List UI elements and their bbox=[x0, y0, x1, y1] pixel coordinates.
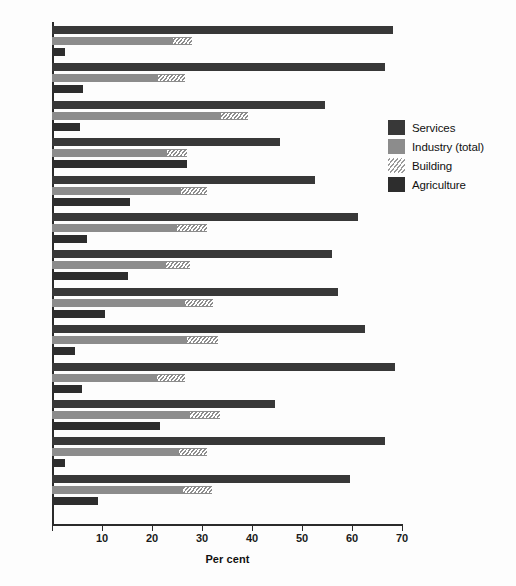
x-tick-label-30: 30 bbox=[196, 532, 208, 544]
bar-agriculture-irl bbox=[52, 272, 128, 280]
chart-legend: Services Industry (total) Building Agric… bbox=[388, 118, 512, 194]
bar-services-d bbox=[52, 101, 325, 109]
x-tick-label-60: 60 bbox=[346, 532, 358, 544]
x-tick-0 bbox=[52, 526, 53, 531]
bar-agriculture-eur12 bbox=[52, 497, 98, 505]
legend-swatch-industry-icon bbox=[388, 139, 405, 154]
legend-label-building: Building bbox=[412, 160, 452, 172]
x-tick-70 bbox=[402, 526, 403, 531]
bar-industry-b bbox=[52, 37, 192, 45]
plot-area: BDKDGREFIRLILNLPUKEUR12 bbox=[52, 22, 402, 522]
bar-agriculture-dk bbox=[52, 85, 83, 93]
bar-services-uk bbox=[52, 437, 385, 445]
x-axis-line bbox=[52, 524, 403, 526]
bar-agriculture-p bbox=[52, 422, 160, 430]
bar-building-f bbox=[177, 224, 207, 232]
bar-building-d bbox=[221, 112, 248, 120]
bar-group-i: I bbox=[52, 288, 402, 318]
x-tick-50 bbox=[302, 526, 303, 531]
bar-services-nl bbox=[52, 363, 395, 371]
legend-item-industry: Industry (total) bbox=[388, 137, 512, 156]
bar-building-b bbox=[173, 37, 192, 45]
bar-building-i bbox=[185, 299, 213, 307]
bar-group-nl: NL bbox=[52, 363, 402, 393]
bar-group-gr: GR bbox=[52, 138, 402, 168]
bar-agriculture-d bbox=[52, 123, 80, 131]
x-tick-label-40: 40 bbox=[246, 532, 258, 544]
bar-building-uk bbox=[179, 448, 207, 456]
bar-building-eur12 bbox=[183, 486, 212, 494]
x-tick-30 bbox=[202, 526, 203, 531]
legend-label-agriculture: Agriculture bbox=[412, 179, 466, 191]
bar-group-irl: IRL bbox=[52, 250, 402, 280]
bar-building-nl bbox=[157, 374, 185, 382]
legend-swatch-agriculture-icon bbox=[388, 177, 405, 192]
bar-building-l bbox=[187, 336, 218, 344]
bar-group-b: B bbox=[52, 26, 402, 56]
bar-agriculture-i bbox=[52, 310, 105, 318]
x-axis-title: Per cent bbox=[52, 553, 403, 565]
legend-label-services: Services bbox=[412, 122, 455, 134]
x-tick-label-70: 70 bbox=[396, 532, 408, 544]
legend-item-building: Building bbox=[388, 156, 512, 175]
bar-agriculture-uk bbox=[52, 459, 65, 467]
bar-agriculture-f bbox=[52, 235, 87, 243]
bar-group-p: P bbox=[52, 400, 402, 430]
bar-building-p bbox=[190, 411, 220, 419]
legend-item-services: Services bbox=[388, 118, 512, 137]
bar-services-dk bbox=[52, 63, 385, 71]
x-tick-label-50: 50 bbox=[296, 532, 308, 544]
bar-group-eur12: EUR12 bbox=[52, 475, 402, 505]
bar-building-gr bbox=[167, 149, 187, 157]
legend-label-industry: Industry (total) bbox=[412, 141, 484, 153]
bar-group-f: F bbox=[52, 213, 402, 243]
bar-group-d: D bbox=[52, 101, 402, 131]
bar-building-irl bbox=[166, 261, 190, 269]
bar-services-b bbox=[52, 26, 393, 34]
bar-services-irl bbox=[52, 250, 332, 258]
legend-swatch-services-icon bbox=[388, 120, 405, 135]
bar-services-i bbox=[52, 288, 338, 296]
bar-services-eur12 bbox=[52, 475, 350, 483]
x-tick-40 bbox=[252, 526, 253, 531]
bar-building-dk bbox=[158, 74, 185, 82]
bar-group-uk: UK bbox=[52, 437, 402, 467]
bar-agriculture-nl bbox=[52, 385, 82, 393]
bar-agriculture-l bbox=[52, 347, 75, 355]
employment-by-sector-bar-chart: BDKDGREFIRLILNLPUKEUR12 10203040506070 P… bbox=[0, 0, 516, 586]
bar-services-gr bbox=[52, 138, 280, 146]
bar-agriculture-e bbox=[52, 198, 130, 206]
bar-industry-d bbox=[52, 112, 248, 120]
x-tick-10 bbox=[102, 526, 103, 531]
x-tick-60 bbox=[352, 526, 353, 531]
bar-group-l: L bbox=[52, 325, 402, 355]
bar-services-l bbox=[52, 325, 365, 333]
legend-item-agriculture: Agriculture bbox=[388, 175, 512, 194]
x-tick-label-10: 10 bbox=[96, 532, 108, 544]
x-tick-20 bbox=[152, 526, 153, 531]
bar-services-f bbox=[52, 213, 358, 221]
bar-group-e: E bbox=[52, 176, 402, 206]
bar-building-e bbox=[181, 187, 207, 195]
legend-swatch-building-icon bbox=[388, 158, 405, 173]
bar-services-p bbox=[52, 400, 275, 408]
bar-agriculture-b bbox=[52, 48, 65, 56]
bar-agriculture-gr bbox=[52, 160, 187, 168]
bar-services-e bbox=[52, 176, 315, 184]
x-tick-label-20: 20 bbox=[146, 532, 158, 544]
bar-group-dk: DK bbox=[52, 63, 402, 93]
